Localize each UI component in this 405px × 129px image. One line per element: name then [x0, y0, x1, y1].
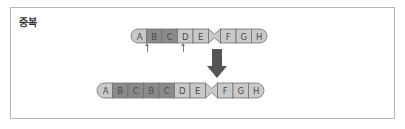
segment-label: C [133, 86, 139, 96]
segment-label: C [164, 86, 170, 96]
segment-label: D [179, 86, 186, 96]
segment-g: G [236, 29, 252, 43]
segment-h: H [249, 83, 265, 98]
segment-label: F [223, 86, 228, 96]
segment-f: F [221, 29, 237, 43]
segment-label: B [151, 32, 157, 42]
segment-d: D [175, 83, 191, 98]
segment-label: G [237, 86, 244, 96]
segment-a: A [97, 83, 113, 98]
diagram-title: 중복 [19, 14, 36, 29]
segment-d: D [178, 29, 194, 43]
segment-b: B [147, 29, 163, 43]
segment-label: H [256, 32, 262, 42]
diagram-frame [10, 7, 395, 119]
segment-label: G [240, 32, 247, 42]
breakpoint-marker-1 [147, 45, 148, 52]
segment-f: F [218, 83, 234, 98]
segment-label: E [198, 32, 203, 42]
segment-label: E [195, 86, 200, 96]
segment-c: C [159, 83, 175, 98]
segment-label: A [103, 86, 109, 96]
segment-label: B [117, 86, 123, 96]
segment-b: B [113, 83, 129, 98]
segment-label: H [253, 86, 259, 96]
segment-g: G [233, 83, 249, 98]
segment-a: A [131, 29, 147, 43]
segment-label: C [167, 32, 173, 42]
chromosome-before: ABCDEFGH [130, 28, 268, 42]
segment-label: D [182, 32, 189, 42]
segment-c: C [162, 29, 178, 43]
breakpoint-marker-2 [183, 45, 184, 52]
centromere [209, 29, 221, 43]
segment-label: B [148, 86, 154, 96]
segment-h: H [252, 29, 268, 43]
segment-c: C [128, 83, 144, 98]
segment-b: B [144, 83, 160, 98]
segment-e: E [190, 83, 206, 98]
centromere [206, 83, 218, 98]
segment-label: A [137, 32, 143, 42]
segment-label: F [226, 32, 231, 42]
down-arrow-icon [207, 49, 227, 83]
segment-e: E [193, 29, 209, 43]
chromosome-after: ABCBCDEFGH [96, 82, 265, 96]
